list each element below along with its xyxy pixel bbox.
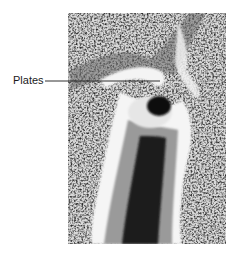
micrograph-image [0, 0, 235, 253]
figure: Plates [0, 0, 235, 253]
plates-label: Plates [13, 74, 44, 87]
